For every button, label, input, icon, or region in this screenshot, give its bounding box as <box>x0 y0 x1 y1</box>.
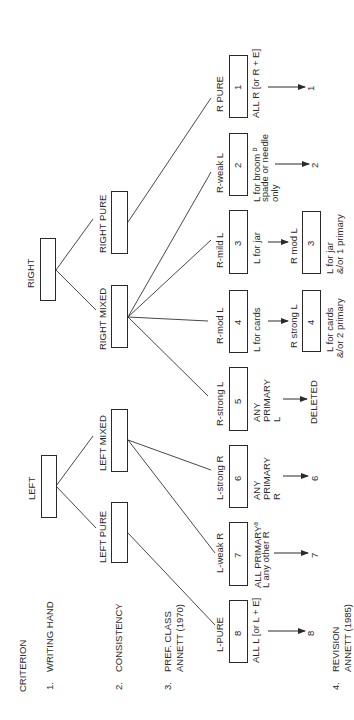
criterion-3-label: PREF. CLASS <box>163 611 174 672</box>
class-1-number: 1 <box>233 85 244 90</box>
class-6-number: 6 <box>233 476 244 481</box>
criterion-2-number: 2. <box>114 682 125 690</box>
right-mixed-label: RIGHT MIXED <box>98 288 109 350</box>
class-5-name: R-strong L <box>215 382 226 426</box>
right-mixed-node <box>111 285 128 348</box>
class-2-name: R-weak L <box>215 153 226 193</box>
class-4-desc: L for cards <box>252 307 263 352</box>
class-7-number: 7 <box>233 553 244 558</box>
left-mixed-node <box>111 409 128 472</box>
revised-4-desc-2: &/or 2 primary <box>335 298 346 358</box>
right-node <box>40 238 56 301</box>
class-4-name: R-mod L <box>215 308 226 344</box>
class-5-desc-2: PRIMARY <box>262 379 273 422</box>
class-2-desc-3: only <box>270 185 281 202</box>
criterion-1-label: WRITING HAND <box>45 601 56 672</box>
class-7-result: 7 <box>310 553 321 558</box>
class-3-name: R-mild L <box>215 233 226 268</box>
class-1-name: R PURE <box>215 76 226 112</box>
criterion-3-sublabel: ANNETT (1970) <box>175 604 186 672</box>
revised-3-number: 3 <box>306 241 317 246</box>
class-7-desc-2: L any other R <box>261 531 272 588</box>
class-2-result: 2 <box>310 163 321 168</box>
criterion-3-number: 3. <box>163 682 174 690</box>
criterion-4-number: 4. <box>331 682 342 690</box>
class-1-desc: ALL R [or R + E] <box>251 49 262 118</box>
class-8-desc: ALL L [or L + E] <box>251 598 262 663</box>
criterion-header: CRITERION <box>18 640 29 692</box>
class-3-number: 3 <box>233 241 244 246</box>
left-pure-node <box>111 502 128 563</box>
revised-4-number: 4 <box>306 320 317 325</box>
left-mixed-label: LEFT MIXED <box>98 415 109 471</box>
left-pure-label: LEFT PURE <box>98 511 109 563</box>
class-7-name: L-weak R <box>215 533 226 573</box>
class-5-result: DELETED <box>309 380 320 424</box>
criterion-4-sublabel: ANNETT (1985) <box>343 604 354 672</box>
class-5-number: 5 <box>233 399 244 404</box>
class-8-name: L-PURE <box>215 617 226 652</box>
class-6-name: L-strong R <box>215 456 226 500</box>
class-4-number: 4 <box>233 320 244 325</box>
right-label: RIGHT <box>26 258 37 288</box>
revised-3-name: R mod L <box>289 228 300 264</box>
class-1-result: 1 <box>306 86 317 91</box>
right-pure-node <box>111 191 128 254</box>
class-8-result: 8 <box>306 631 317 636</box>
class-6-result: 6 <box>310 476 321 481</box>
right-pure-label: RIGHT PURE <box>98 195 109 253</box>
class-3-desc: L for jar <box>252 232 263 264</box>
class-5-desc-3: L <box>272 417 283 422</box>
criterion-1-number: 1. <box>45 682 56 690</box>
left-label: LEFT <box>27 477 38 500</box>
class-8-number: 8 <box>233 631 244 636</box>
revised-3-desc-2: &/or 1 primary <box>335 214 346 274</box>
revised-4-name: R strong L <box>289 304 300 348</box>
left-node <box>41 455 57 518</box>
criterion-2-label: CONSISTENCY <box>114 603 125 672</box>
class-2-number: 2 <box>233 163 244 168</box>
criterion-4-label: REVISION <box>331 627 342 672</box>
class-6-desc-3: R <box>272 493 283 500</box>
